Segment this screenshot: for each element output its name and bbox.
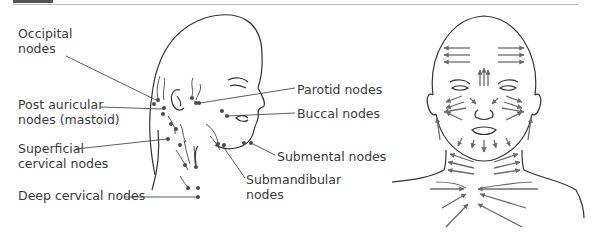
front-head-illustration (392, 16, 584, 218)
neck-curve-strokes (436, 182, 532, 188)
profile-head-illustration (150, 15, 265, 190)
lymph-vessels (157, 76, 220, 188)
massage-direction-arrows (430, 48, 538, 227)
lymph-node-diagram (0, 0, 594, 235)
